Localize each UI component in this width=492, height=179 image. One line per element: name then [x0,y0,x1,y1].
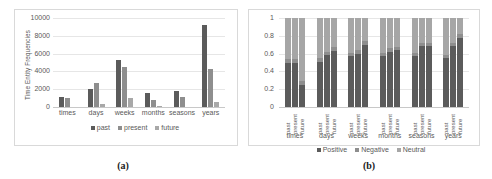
sub-label: past [285,108,291,134]
legend-label: present [124,124,147,131]
segment-neutral [380,18,386,53]
x-tick-label: times [53,109,82,116]
figure-container: Time Entity Frequencies 0200040006000800… [0,0,492,179]
y-tick-label: 0 [14,103,50,110]
segment-positive [348,56,354,107]
segment-positive [355,54,361,107]
sub-label: present [324,108,330,134]
stacked-bar-present [419,18,425,107]
segment-positive [299,85,305,107]
stacked-bar-past [348,18,354,107]
bar-past [202,25,207,107]
sub-label: future [457,108,463,134]
sub-label-group: pastpresentfuture [279,108,311,134]
stacked-bar-group [342,18,374,107]
sub-label: past [317,108,323,134]
panel-b: 00.20.40.60.81 pastpresentfuturepastpres… [246,0,492,179]
x-tick-label: days [311,132,343,139]
legend-swatch-icon [355,148,359,152]
legend-b: PositiveNegativeNeutral [271,146,471,153]
sub-label: future [394,108,400,134]
bar-future [214,102,219,107]
bar-present [180,97,185,107]
bar-past [88,89,93,107]
stacked-bar-future [362,18,368,107]
stacked-bar-past [380,18,386,107]
legend-label: Positive [323,146,348,153]
stacked-bar-group [437,18,469,107]
sub-label-group: pastpresentfuture [406,108,438,134]
stacked-bar-group [406,18,438,107]
bar-future [100,104,105,107]
legend-swatch-icon [91,126,95,130]
sub-labels-b: pastpresentfuturepastpresentfuturepastpr… [279,108,469,134]
y-tick-label: 0.2 [246,85,274,92]
segment-neutral [292,18,298,59]
sub-label-group: pastpresentfuture [437,108,469,134]
y-tick-label: 0.4 [246,67,274,74]
segment-neutral [317,18,323,58]
stacked-bar-group [279,18,311,107]
sub-label-group: pastpresentfuture [342,108,374,134]
legend-item: Positive [317,146,348,153]
x-tick-label: months [139,109,168,116]
sub-label: past [348,108,354,134]
y-tick-label: 2000 [14,85,50,92]
grid-line [53,107,225,108]
x-tick-label: months [374,132,406,139]
x-axis-ticks-a: timesdaysweeksmonthsseasonsyears [53,109,225,116]
segment-neutral [387,18,393,48]
stacked-bar-present [387,18,393,107]
bar-present [151,100,156,107]
x-tick-label: years [437,132,469,139]
x-tick-label: seasons [406,132,438,139]
sub-label: future [299,108,305,134]
segment-positive [380,56,386,107]
sub-label: present [387,108,393,134]
stacked-bar-future [331,18,337,107]
stacked-bar-future [299,18,305,107]
segment-neutral [331,18,337,47]
stacked-bar-present [450,18,456,107]
stacked-bar-future [457,18,463,107]
legend-label: Negative [361,146,389,153]
segment-positive [317,62,323,107]
sub-label: past [412,108,418,134]
segment-neutral [412,18,418,53]
bar-past [59,97,64,107]
y-tick-label: 10000 [14,14,50,21]
segment-positive [457,38,463,107]
stacked-bar-past [443,18,449,107]
sub-label: present [355,108,361,134]
segment-neutral [362,18,368,41]
legend-a: pastpresentfuture [40,124,230,131]
sub-label: future [331,108,337,134]
stacked-bar-present [324,18,330,107]
plot-area-a [53,18,225,107]
legend-item: future [155,124,179,131]
legend-label: future [161,124,179,131]
segment-neutral [419,18,425,43]
legend-item: present [118,124,147,131]
segment-positive [324,55,330,107]
legend-label: past [97,124,110,131]
y-tick-label: 1 [246,14,274,21]
sub-label-group: pastpresentfuture [374,108,406,134]
stacked-bar-future [394,18,400,107]
segment-positive [419,46,425,107]
bar-past [116,60,121,107]
bar-present [122,67,127,107]
segment-positive [331,51,337,107]
x-tick-label: times [279,132,311,139]
bar-past [174,91,179,107]
segment-neutral [299,18,305,81]
segment-positive [412,56,418,107]
legend-item: Negative [355,146,389,153]
stacked-bar-present [292,18,298,107]
x-tick-label: weeks [342,132,374,139]
stacked-bar-group [374,18,406,107]
bar-group [196,18,225,107]
segment-positive [285,63,291,108]
bar-groups-b [279,18,469,107]
segment-positive [362,45,368,107]
